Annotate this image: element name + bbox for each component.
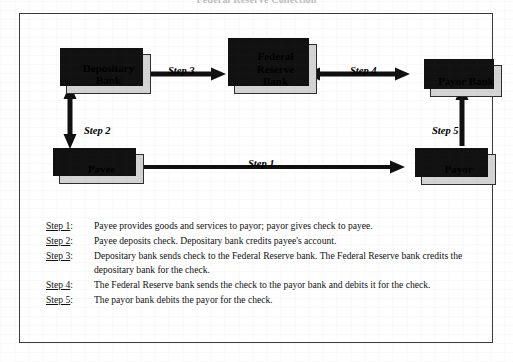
node-payor[interactable]: Payor bbox=[421, 154, 496, 185]
node-payor-bank-label: Payor Bank bbox=[436, 75, 496, 88]
arrow-label-step5: Step 5 bbox=[432, 125, 459, 136]
legend-item: Step 5: The payor bank debits the payor … bbox=[46, 293, 470, 307]
legend-item-colon: : bbox=[70, 294, 73, 305]
legend-item-text: Payee deposits check. Depositary bank cr… bbox=[91, 234, 470, 248]
legend-item-text: The payor bank debits the payor for the … bbox=[91, 293, 470, 307]
legend-item: Step 2: Payee deposits check. Depositary… bbox=[46, 234, 470, 248]
legend-item-key-text: Step 3 bbox=[46, 250, 70, 261]
legend-item-key-text: Step 4 bbox=[46, 279, 70, 290]
legend-item-text: Depositary bank sends check to the Feder… bbox=[91, 249, 470, 276]
legend-item-key: Step 2: bbox=[46, 234, 91, 248]
node-federal-reserve-bank[interactable]: Federal Reserve Bank bbox=[234, 44, 317, 94]
legend-item-colon: : bbox=[70, 279, 73, 290]
legend-item: Step 1: Payee provides goods and service… bbox=[46, 219, 470, 233]
legend-item-key: Step 1: bbox=[46, 219, 91, 233]
node-federal-reserve-bank-label: Federal Reserve Bank bbox=[255, 50, 296, 88]
arrow-label-step1: Step 1 bbox=[248, 158, 275, 169]
node-payor-bank[interactable]: Payor Bank bbox=[430, 65, 502, 97]
node-depositary-bank[interactable]: Depositary Bank bbox=[66, 54, 151, 94]
legend-item-key-text: Step 1 bbox=[46, 220, 70, 231]
node-payee-label: Payee bbox=[86, 163, 117, 176]
legend-item-colon: : bbox=[70, 250, 73, 261]
legend-item-key-text: Step 5 bbox=[46, 294, 70, 305]
legend-item-colon: : bbox=[70, 235, 73, 246]
document-title: Federal Reserve Collection bbox=[0, 0, 513, 5]
node-payor-label: Payor bbox=[442, 163, 474, 176]
arrow-label-step4: Step 4 bbox=[350, 65, 377, 76]
legend-item-colon: : bbox=[70, 220, 73, 231]
legend-item-key: Step 4: bbox=[46, 278, 91, 292]
legend-item-text: The Federal Reserve bank sends the check… bbox=[91, 278, 470, 292]
legend-item-key: Step 5: bbox=[46, 293, 91, 307]
node-payee[interactable]: Payee bbox=[59, 154, 144, 184]
legend-item-key: Step 3: bbox=[46, 249, 91, 263]
arrow-label-step3: Step 3 bbox=[168, 65, 195, 76]
legend-item-key-text: Step 2 bbox=[46, 235, 70, 246]
legend-item-text: Payee provides goods and services to pay… bbox=[91, 219, 470, 233]
node-depositary-bank-label: Depositary Bank bbox=[81, 62, 136, 87]
legend-item: Step 3: Depositary bank sends check to t… bbox=[46, 249, 470, 276]
arrow-label-step2: Step 2 bbox=[84, 125, 111, 136]
legend-list: Step 1: Payee provides goods and service… bbox=[46, 219, 470, 308]
legend-item: Step 4: The Federal Reserve bank sends t… bbox=[46, 278, 470, 292]
